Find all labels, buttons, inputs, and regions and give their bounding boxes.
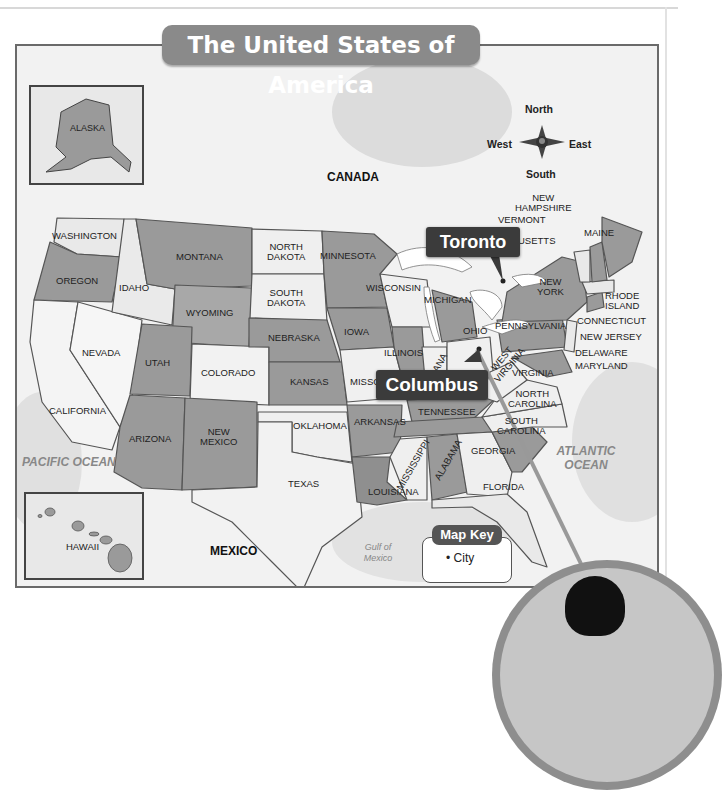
label-oregon: OREGON [56, 276, 98, 286]
label-minnesota: MINNESOTA [320, 251, 376, 261]
label-hawaii: HAWAII [66, 542, 99, 552]
label-massachusetts: USETTS [518, 236, 555, 246]
label-nevada: NEVADA [82, 348, 120, 358]
label-connecticut: CONNECTICUT [577, 316, 646, 326]
compass-north: North [525, 103, 553, 115]
portrait-person [565, 576, 625, 636]
alaska-shape [31, 87, 142, 183]
label-kansas: KANSAS [290, 377, 329, 387]
label-california: CALIFORNIA [49, 406, 106, 416]
label-south-carolina: SOUTHCAROLINA [497, 416, 546, 436]
label-gulf-of-mexico: Gulf of Mexico [357, 542, 399, 564]
label-arkansas: ARKANSAS [354, 417, 406, 427]
label-montana: MONTANA [176, 252, 223, 262]
compass-west: West [487, 138, 512, 150]
label-maryland: MARYLAND [575, 361, 628, 371]
hawaii-inset [24, 492, 144, 580]
label-mexico: MEXICO [210, 546, 257, 556]
label-wisconsin: WISCONSIN [366, 283, 421, 293]
label-florida: FLORIDA [483, 482, 524, 492]
label-new-hampshire: NEWHAMPSHIRE [515, 193, 571, 213]
label-illinois: ILLINOIS [384, 348, 423, 358]
hawaii-islands [26, 494, 142, 578]
label-georgia: GEORGIA [471, 446, 515, 456]
label-vermont: VERMONT [498, 215, 546, 225]
right-border [665, 7, 667, 604]
label-idaho: IDAHO [119, 283, 149, 293]
label-texas: TEXAS [288, 479, 319, 489]
label-washington: WASHINGTON [52, 231, 117, 241]
callout-columbus: Columbus [376, 370, 488, 400]
label-canada: CANADA [327, 172, 379, 182]
label-virginia: VIRGINIA [512, 368, 554, 378]
label-maine: MAINE [584, 228, 614, 238]
map-title: The United States of America [162, 25, 480, 65]
label-north-dakota: NORTHDAKOTA [267, 242, 305, 262]
label-tennessee: TENNESSEE [418, 407, 476, 417]
label-utah: UTAH [145, 358, 170, 368]
label-rhode-island: RHODEISLAND [605, 291, 639, 311]
label-michigan: MICHIGAN [424, 295, 472, 305]
label-iowa: IOWA [344, 327, 369, 337]
label-nebraska: NEBRASKA [268, 333, 320, 343]
label-alaska: ALASKA [70, 123, 105, 133]
label-arizona: ARIZONA [129, 434, 171, 444]
label-wyoming: WYOMING [186, 308, 234, 318]
compass-south: South [526, 168, 556, 180]
label-north-carolina: NORTHCAROLINA [508, 389, 557, 409]
city-dot-icon: • [446, 551, 450, 565]
label-atlantic-ocean: ATLANTIC OCEAN [555, 444, 617, 472]
label-oklahoma: OKLAHOMA [293, 421, 347, 431]
map-key-city: • City [446, 551, 474, 565]
label-new-york: NEWYORK [537, 277, 564, 297]
map-key-title: Map Key [432, 525, 502, 545]
label-colorado: COLORADO [201, 368, 255, 378]
label-pennsylvania: PENNSYLVANIA [495, 321, 566, 331]
alaska-inset [29, 85, 144, 185]
top-border [0, 7, 678, 9]
label-new-jersey: NEW JERSEY [580, 332, 642, 342]
label-delaware: DELAWARE [575, 348, 628, 358]
callout-toronto: Toronto [426, 227, 520, 257]
compass-east: East [569, 138, 591, 150]
label-south-dakota: SOUTHDAKOTA [267, 288, 305, 308]
label-pacific-ocean: PACIFIC OCEAN [22, 455, 72, 469]
label-new-mexico: NEWMEXICO [200, 427, 237, 447]
label-louisiana: LOUISIANA [368, 487, 419, 497]
label-ohio: OHIO [463, 326, 487, 336]
